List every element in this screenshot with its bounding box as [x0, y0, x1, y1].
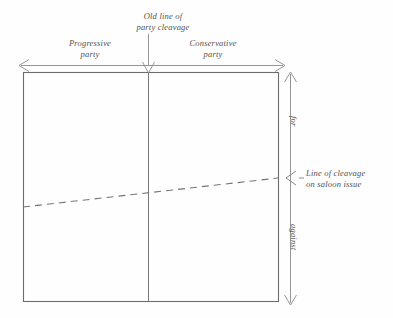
- conservative-party-label-line2: party: [163, 49, 263, 60]
- diagram-canvas: Old line of party cleavage Progressive p…: [0, 0, 393, 318]
- old-line-label-line1: Old line of: [108, 11, 218, 22]
- old-line-of-party-cleavage-label: Old line of party cleavage: [108, 11, 218, 32]
- conservative-party-label: Conservative party: [163, 38, 263, 59]
- against-axis-label: against: [289, 224, 299, 250]
- electorate-rectangle: [24, 73, 279, 302]
- progressive-party-label: Progressive party: [42, 38, 138, 59]
- old-line-label-line2: party cleavage: [108, 22, 218, 33]
- progressive-party-label-line1: Progressive: [42, 38, 138, 49]
- for-axis-label: for: [289, 116, 299, 127]
- conservative-party-label-line1: Conservative: [163, 38, 263, 49]
- progressive-party-label-line2: party: [42, 49, 138, 60]
- saloon-issue-marker-arrowhead: [286, 171, 296, 185]
- saloon-issue-label-line2: on saloon issue: [306, 179, 392, 190]
- saloon-issue-label-line1: Line of cleavage: [306, 168, 392, 179]
- saloon-issue-cleavage-line: [23, 178, 278, 207]
- saloon-issue-cleavage-label: Line of cleavage on saloon issue: [306, 168, 392, 189]
